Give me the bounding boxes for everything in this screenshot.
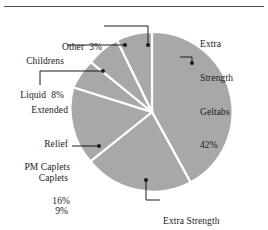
leader-dot-geltabs (190, 61, 194, 65)
pie-chart-figure: Extra Strength Geltabs 42% Extra Strengt… (0, 0, 268, 230)
slice-label-other: Other 3% (40, 20, 102, 76)
slice-label-value: 9% (0, 206, 68, 217)
slice-label-value: Liquid 8% (0, 90, 64, 101)
slice-label-line: Extra (200, 39, 233, 50)
slice-label-value: 42% (200, 140, 233, 151)
slice-label-line: Strength (200, 73, 233, 84)
slice-label-line: Geltabs (200, 107, 233, 118)
leader-dot-childrens-liquid (123, 43, 127, 47)
slice-label-value: Other 3% (40, 42, 102, 53)
slice-label-extra-strength-gelcaps: Extra Strength Gelcaps 22% (163, 194, 220, 230)
leader-dot-pm-caplets (97, 144, 101, 148)
slice-label-line: Extra Strength (163, 216, 220, 227)
slice-label-line: Relief (0, 139, 68, 150)
slice-label-extra-strength-geltabs: Extra Strength Geltabs 42% (200, 17, 233, 174)
leader-dot-other (146, 43, 150, 47)
slice-label-line: Caplets (0, 173, 68, 184)
leader-dot-gelcaps (144, 178, 148, 182)
